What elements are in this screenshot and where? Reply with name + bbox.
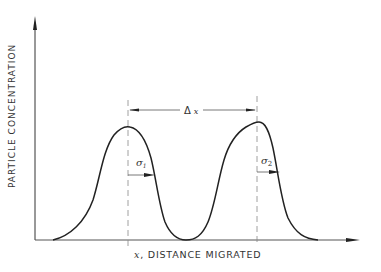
x-axis-label: x, DISTANCE MIGRATED xyxy=(134,249,261,260)
delta-x-label: Δx xyxy=(184,105,199,116)
concentration-curve xyxy=(53,122,318,240)
y-axis-arrowhead-icon xyxy=(33,16,37,30)
sigma-1-arrowhead-icon xyxy=(144,173,155,177)
delta-variable: x xyxy=(194,107,199,116)
delta-x-dimension: Δx xyxy=(129,105,256,116)
sigma-1-label: σ1 xyxy=(136,157,147,169)
y-axis xyxy=(33,16,37,240)
delta-symbol: Δ xyxy=(184,105,191,116)
band-broadening-diagram: PARTICLE CONCENTRATION x, DISTANCE MIGRA… xyxy=(0,0,381,272)
sigma-2-label: σ2 xyxy=(261,155,272,168)
x-axis-arrowhead-icon xyxy=(346,238,360,242)
delta-right-arrowhead-icon xyxy=(246,109,256,112)
y-axis-label: PARTICLE CONCENTRATION xyxy=(7,44,17,188)
delta-left-arrowhead-icon xyxy=(129,109,139,112)
x-axis-label-text: , DISTANCE MIGRATED xyxy=(140,249,261,260)
